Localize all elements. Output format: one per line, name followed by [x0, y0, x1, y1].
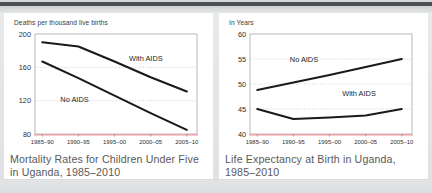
series-annotation: No AIDS	[60, 95, 88, 104]
panel-life-expectancy: In Years 40455055601985–901990–951995–00…	[219, 13, 428, 179]
y-tick-label: 40	[238, 130, 246, 139]
x-tick-label: 1985–90	[246, 139, 270, 145]
caption-life-expectancy: Life Expectancy at Birth in Uganda, 1985…	[225, 153, 423, 178]
x-tick-label: 2005–10	[390, 139, 414, 145]
x-tick-label: 2000–05	[139, 139, 163, 145]
y-tick-label: 200	[19, 30, 31, 39]
chart-svg-right: 40455055601985–901990–951995–002000–0520…	[224, 27, 423, 147]
y-tick-label: 45	[238, 105, 246, 114]
y-tick-label: 50	[238, 80, 246, 89]
series-line	[257, 59, 402, 90]
chart-life-expectancy: 40455055601985–901990–951995–002000–0520…	[224, 27, 423, 147]
chart-child-mortality: 801201602001985–901990–951995–002000–052…	[9, 27, 208, 147]
page-background-shade	[0, 6, 432, 13]
x-tick-label: 2000–05	[354, 139, 378, 145]
y-tick-label: 80	[23, 130, 31, 139]
axis-unit-label-left: Deaths per thousand live births	[14, 18, 208, 27]
x-tick-label: 1985–90	[31, 139, 55, 145]
y-tick-label: 60	[238, 30, 246, 39]
x-tick-label: 2005–10	[175, 139, 199, 145]
figure-root: Deaths per thousand live births 80120160…	[0, 0, 432, 193]
axis-unit-label-right: In Years	[229, 18, 423, 27]
series-line	[257, 109, 402, 119]
chart-svg-left: 801201602001985–901990–951995–002000–052…	[9, 27, 208, 147]
y-tick-label: 55	[238, 55, 246, 64]
panel-child-mortality: Deaths per thousand live births 80120160…	[4, 13, 213, 179]
y-tick-label: 160	[19, 63, 31, 72]
caption-child-mortality: Mortality Rates for Children Under Five …	[10, 153, 208, 178]
series-line	[42, 42, 187, 91]
footnote-strip	[0, 180, 432, 193]
series-annotation: No AIDS	[290, 55, 318, 64]
x-tick-label: 1990–95	[67, 139, 91, 145]
clipped-footnote-text	[6, 180, 426, 183]
x-tick-label: 1990–95	[282, 139, 306, 145]
plot-frame	[35, 34, 197, 134]
chart-panels: Deaths per thousand live births 80120160…	[4, 13, 428, 179]
series-annotation: With AIDS	[342, 89, 376, 98]
y-tick-label: 120	[19, 96, 31, 105]
series-annotation: With AIDS	[129, 54, 163, 63]
x-tick-label: 1995–00	[103, 139, 127, 145]
x-tick-label: 1995–00	[318, 139, 342, 145]
